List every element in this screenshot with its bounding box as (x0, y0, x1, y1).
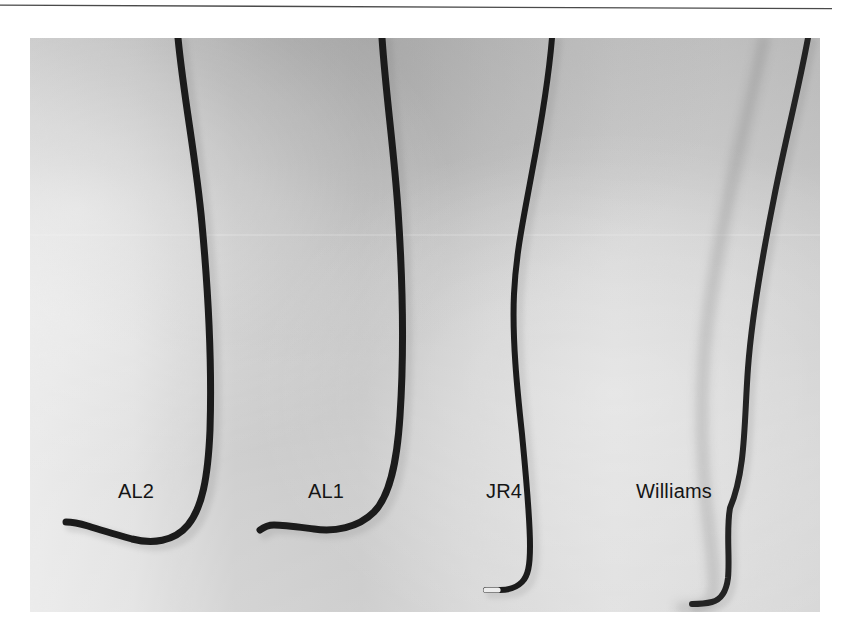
catheter-label-al2: AL2 (118, 481, 154, 501)
catheter-label-al1: AL1 (308, 481, 344, 501)
horizontal-rule (0, 4, 832, 12)
catheter-photograph (30, 38, 820, 612)
catheter-label-jr4: JR4 (486, 481, 522, 501)
catheter-label-williams: Williams (636, 481, 712, 501)
figure-page: AL2 AL1 JR4 Williams (0, 0, 852, 642)
photo-grain-overlay (30, 38, 820, 612)
photo-canvas (30, 38, 820, 612)
